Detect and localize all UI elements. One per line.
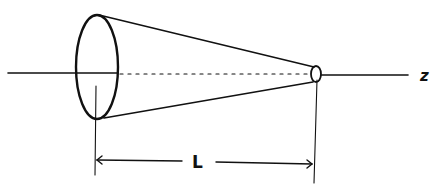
dimension-line-right bbox=[216, 162, 312, 164]
axis-label-z: z bbox=[419, 67, 429, 85]
cone-bottom-edge bbox=[104, 82, 313, 118]
extension-line-left bbox=[95, 86, 96, 175]
cone-top-edge bbox=[99, 15, 314, 67]
length-label-text: L bbox=[192, 152, 203, 172]
extension-line-right bbox=[314, 80, 317, 183]
length-label: L bbox=[192, 152, 203, 172]
cone-base-ellipse bbox=[76, 15, 118, 119]
cone-apex-ellipse bbox=[311, 66, 321, 82]
dimension-line-left bbox=[97, 160, 182, 161]
cone-diagram: L z bbox=[0, 0, 436, 188]
